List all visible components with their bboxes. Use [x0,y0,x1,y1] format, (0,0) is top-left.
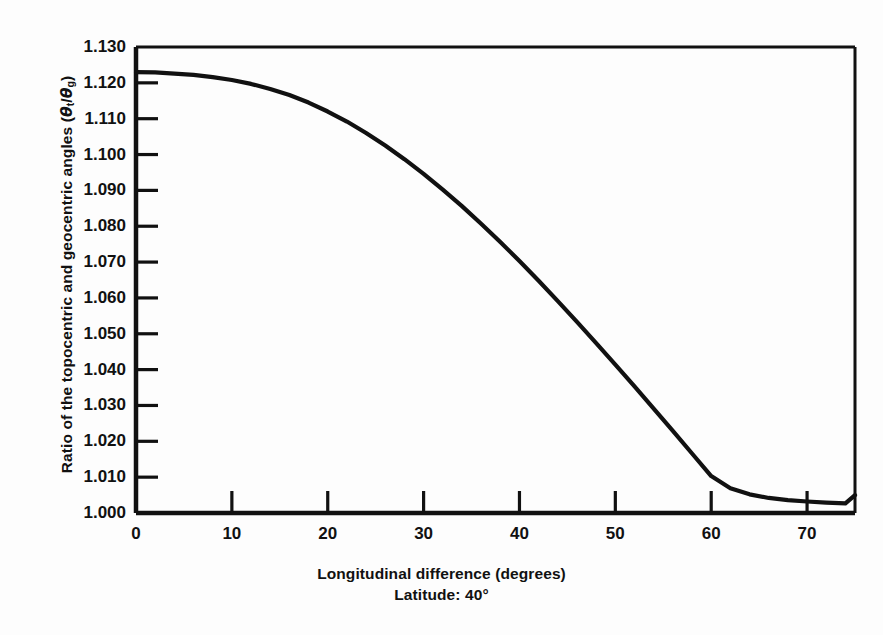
x-tick-label: 20 [298,525,358,542]
x-axis-title: Longitudinal difference (degrees) [0,563,883,584]
x-tick-label: 70 [777,525,837,542]
x-tick-label: 50 [585,525,645,542]
x-tick-label: 10 [202,525,262,542]
x-tick-label: 40 [489,525,549,542]
chart-figure: Ratio of the topocentric and geocentric … [0,0,883,635]
latitude-annotation: Latitude: 40° [0,584,883,605]
x-tick-label: 0 [106,525,166,542]
figure-captions: Longitudinal difference (degrees) Latitu… [0,563,883,605]
x-axis-tick-labels: 010203040506070 [0,0,883,635]
x-tick-label: 60 [681,525,741,542]
x-tick-label: 30 [394,525,454,542]
